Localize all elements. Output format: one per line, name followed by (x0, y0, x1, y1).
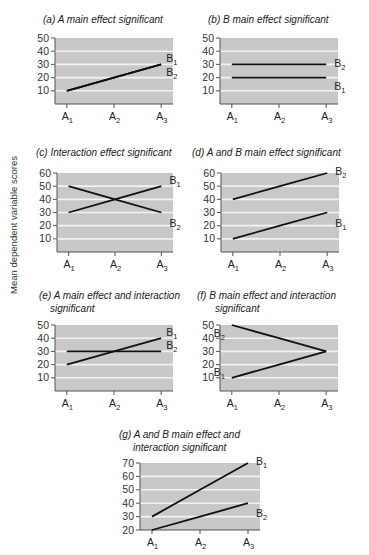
y-tick-label: 60 (39, 167, 51, 179)
plot-area (55, 325, 173, 391)
y-tick-label: 50 (39, 180, 51, 192)
y-tick-label: 30 (122, 510, 134, 522)
y-tick-label: 50 (202, 319, 214, 331)
y-tick-label: 10 (203, 232, 215, 244)
y-tick-label: 50 (203, 180, 215, 192)
y-tick-label: 20 (37, 71, 49, 83)
chart-e: 1020304050A1A2A3B1B2 (0, 285, 185, 420)
x-tick-label: A1 (228, 258, 239, 273)
chart-f: 1020304050A1A2A3B1B2 (185, 285, 369, 420)
y-tick-label: 40 (37, 45, 49, 57)
x-tick-label: A3 (156, 110, 167, 125)
y-tick-label: 10 (37, 371, 49, 383)
chart-c: 102030405060A1A2A3B1B2 (0, 135, 185, 285)
panel-b: (b) B main effect significant 1020304050… (185, 0, 369, 135)
x-tick-label: A1 (147, 536, 158, 551)
y-tick-label: 40 (122, 497, 134, 509)
panel-c: (c) Interaction effect significant 10203… (0, 135, 185, 285)
y-tick-label: 60 (203, 167, 215, 179)
y-tick-label: 30 (202, 58, 214, 70)
x-tick-label: A1 (64, 258, 75, 273)
x-tick-label: A2 (109, 397, 120, 412)
x-tick-label: A2 (110, 258, 121, 273)
panel-d: (d) A and B main effect significant 1020… (185, 135, 369, 285)
chart-g: 203040506070A1A2A3B1B2 (90, 420, 290, 555)
x-tick-label: A3 (156, 258, 167, 273)
x-tick-label: A3 (243, 536, 254, 551)
y-tick-label: 20 (202, 71, 214, 83)
y-tick-label: 50 (37, 319, 49, 331)
y-tick-label: 30 (37, 58, 49, 70)
plot-area (140, 463, 260, 530)
y-tick-label: 20 (122, 524, 134, 536)
y-tick-label: 30 (37, 345, 49, 357)
y-tick-label: 40 (203, 193, 215, 205)
y-tick-label: 40 (39, 193, 51, 205)
y-tick-label: 60 (122, 470, 134, 482)
y-tick-label: 10 (202, 84, 214, 96)
x-tick-label: A3 (322, 258, 333, 273)
plot-area (220, 38, 338, 104)
x-tick-label: A2 (274, 397, 285, 412)
y-tick-label: 20 (39, 219, 51, 231)
panel-a: (a) A main effect significant 1020304050… (0, 0, 185, 135)
x-tick-label: A1 (62, 397, 73, 412)
x-tick-label: A3 (321, 110, 332, 125)
x-tick-label: A1 (62, 110, 73, 125)
y-tick-label: 10 (202, 371, 214, 383)
y-tick-label: 50 (37, 32, 49, 44)
x-tick-label: A3 (156, 397, 167, 412)
y-tick-label: 40 (37, 332, 49, 344)
x-tick-label: A1 (227, 110, 238, 125)
y-tick-label: 10 (37, 84, 49, 96)
plot-area (220, 325, 338, 391)
y-tick-label: 30 (202, 345, 214, 357)
y-tick-label: 70 (122, 457, 134, 469)
y-tick-label: 30 (203, 206, 215, 218)
x-tick-label: A2 (109, 110, 120, 125)
x-tick-label: A2 (195, 536, 206, 551)
chart-b: 1020304050A1A2A3B1B2 (185, 0, 369, 135)
y-tick-label: 50 (122, 483, 134, 495)
panel-f: (f) B main effect and interaction signif… (185, 285, 369, 420)
panel-e: (e) A main effect and interaction signif… (0, 285, 185, 420)
y-tick-label: 30 (39, 206, 51, 218)
y-tick-label: 20 (203, 219, 215, 231)
x-tick-label: A2 (275, 258, 286, 273)
x-tick-label: A2 (274, 110, 285, 125)
y-tick-label: 10 (39, 232, 51, 244)
y-tick-label: 50 (202, 32, 214, 44)
y-tick-label: 40 (202, 332, 214, 344)
panel-g: (g) A and B main effect and interaction … (90, 420, 290, 555)
x-tick-label: A1 (227, 397, 238, 412)
plot-area (55, 38, 173, 104)
y-tick-label: 20 (37, 358, 49, 370)
y-tick-label: 20 (202, 358, 214, 370)
chart-a: 1020304050A1A2A3B1B2 (0, 0, 185, 135)
chart-d: 102030405060A1A2A3B1B2 (185, 135, 369, 285)
x-tick-label: A3 (321, 397, 332, 412)
y-tick-label: 40 (202, 45, 214, 57)
